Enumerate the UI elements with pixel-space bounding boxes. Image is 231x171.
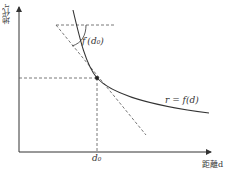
y-axis-label: 地代r <box>1 4 12 24</box>
curve-label: r = f(d) <box>165 95 199 105</box>
x-axis-label: 距離d <box>202 158 223 169</box>
diagram-canvas <box>0 0 231 171</box>
tangent-point <box>95 76 99 80</box>
slope-label: f′(d₀) <box>82 36 104 46</box>
x-tick-label-d0: d₀ <box>92 153 101 163</box>
